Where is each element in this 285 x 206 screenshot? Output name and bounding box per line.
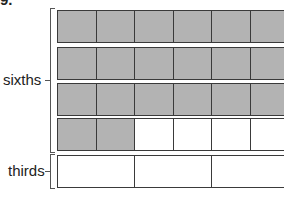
shaded-cell [251,11,285,42]
blank-cell [251,119,285,150]
shaded-cell [135,48,174,79]
blank-cell [174,119,213,150]
shaded-cell [135,11,174,42]
sixths-bar-row [57,118,284,151]
shaded-cell [97,48,136,79]
sixths-tick [45,80,50,81]
shaded-cell [212,11,251,42]
shaded-cell [212,84,251,115]
blank-cell [135,119,174,150]
shaded-cell [58,84,97,115]
shaded-cell [212,48,251,79]
shaded-cell [58,48,97,79]
shaded-cell [135,84,174,115]
blank-cell [212,119,251,150]
shaded-cell [251,84,285,115]
shaded-cell [174,11,213,42]
sixths-label: sixths [3,71,41,88]
blank-cell [212,156,284,187]
sixths-bar-row [57,10,284,43]
sixths-bar-row [57,47,284,80]
shaded-cell [97,11,136,42]
problem-number: 9. [0,0,13,8]
thirds-label: thirds [8,162,45,179]
shaded-cell [58,119,97,150]
thirds-bar-row [57,155,284,188]
shaded-cell [97,119,136,150]
thirds-bracket [50,154,55,189]
blank-cell [58,156,135,187]
shaded-cell [174,48,213,79]
thirds-tick [45,171,50,172]
sixths-bar-row [57,83,284,116]
shaded-cell [58,11,97,42]
blank-cell [135,156,212,187]
shaded-cell [174,84,213,115]
shaded-cell [251,48,285,79]
sixths-bracket [50,8,55,153]
shaded-cell [97,84,136,115]
